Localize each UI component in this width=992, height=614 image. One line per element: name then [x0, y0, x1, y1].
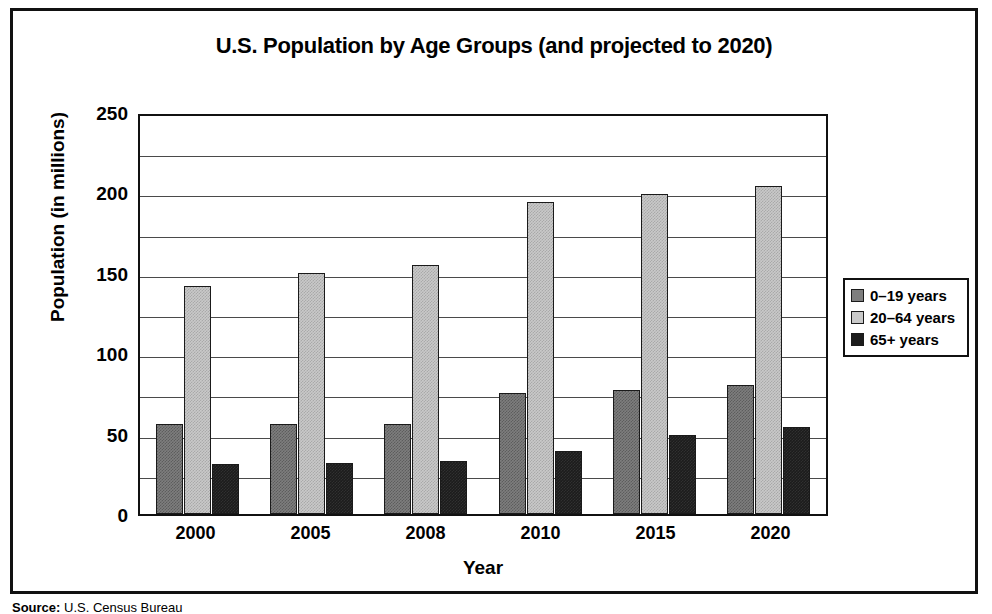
bar [555, 451, 582, 514]
bar [755, 186, 782, 514]
bar [669, 435, 696, 514]
legend-swatch [851, 333, 864, 346]
y-axis-tick-label: 250 [58, 103, 128, 125]
legend: 0–19 years20–64 years65+ years [843, 278, 969, 357]
bar [613, 390, 640, 514]
bar-groups [140, 116, 826, 514]
bar [184, 286, 211, 514]
legend-swatch [851, 289, 864, 302]
x-axis-tick-label: 2020 [713, 523, 828, 544]
bar [270, 424, 297, 514]
y-axis-tick-label: 0 [58, 505, 128, 527]
bar [412, 265, 439, 514]
chart-title: U.S. Population by Age Groups (and proje… [13, 33, 975, 59]
bar-group [597, 116, 711, 514]
bar [298, 273, 325, 514]
bar [641, 194, 668, 514]
legend-label: 0–19 years [870, 287, 947, 304]
bar-group [712, 116, 826, 514]
legend-label: 20–64 years [870, 309, 955, 326]
bar [527, 202, 554, 514]
legend-swatch [851, 311, 864, 324]
bar [783, 427, 810, 514]
bar [384, 424, 411, 514]
x-axis-tick-label: 2000 [138, 523, 253, 544]
legend-item: 20–64 years [851, 306, 962, 328]
legend-label: 65+ years [870, 331, 939, 348]
y-axis-tick-label: 100 [58, 344, 128, 366]
y-axis-tick-label: 50 [58, 425, 128, 447]
x-axis-tick-label: 2010 [483, 523, 598, 544]
plot-area [138, 114, 828, 516]
bar-group [140, 116, 254, 514]
bar-group [254, 116, 368, 514]
y-axis-tick-labels: 250200150100500 [53, 114, 128, 516]
y-axis-tick-label: 200 [58, 183, 128, 205]
x-axis-tick-label: 2015 [598, 523, 713, 544]
bar [440, 461, 467, 514]
figure-frame: U.S. Population by Age Groups (and proje… [10, 8, 978, 594]
x-axis-title: Year [138, 557, 828, 579]
legend-item: 0–19 years [851, 284, 962, 306]
source-note: Source: U.S. Census Bureau [12, 600, 183, 614]
x-axis-tick-labels: 200020052008201020152020 [138, 523, 828, 544]
bar [727, 385, 754, 514]
x-axis-tick-label: 2008 [368, 523, 483, 544]
source-label: Source: [12, 600, 60, 614]
bar [499, 393, 526, 514]
bar [326, 463, 353, 514]
legend-item: 65+ years [851, 328, 962, 350]
y-axis-tick-label: 150 [58, 264, 128, 286]
bar-group [369, 116, 483, 514]
bar [212, 464, 239, 514]
bar-group [483, 116, 597, 514]
bar [156, 424, 183, 514]
source-text: U.S. Census Bureau [60, 600, 182, 614]
x-axis-tick-label: 2005 [253, 523, 368, 544]
